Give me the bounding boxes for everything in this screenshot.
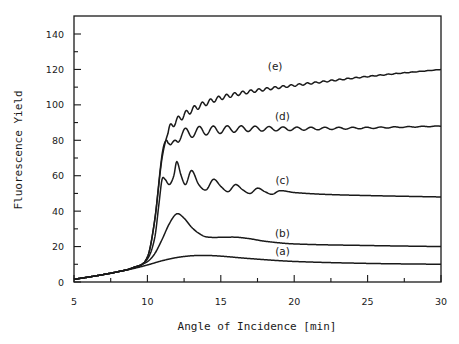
plot-frame — [74, 16, 441, 282]
curve-label-d: (d) — [275, 110, 290, 122]
y-tick-label: 100 — [46, 99, 64, 110]
x-tick-label: 15 — [215, 296, 227, 307]
plot-border — [74, 16, 441, 282]
curve-label-a: (a) — [275, 245, 290, 257]
curve-label-e: (e) — [268, 60, 283, 72]
x-tick-label: 20 — [288, 296, 300, 307]
curve-d — [74, 126, 441, 280]
y-tick-label: 40 — [52, 206, 64, 217]
y-tick-label: 120 — [46, 64, 64, 75]
curve-label-c: (c) — [275, 174, 289, 186]
x-tick-label: 30 — [435, 296, 447, 307]
x-tick-label: 25 — [362, 296, 374, 307]
curve-c — [74, 162, 441, 280]
curve-label-b: (b) — [275, 227, 290, 239]
y-axis: 020406080100120140 — [46, 29, 81, 288]
y-axis-title: Fluorescence Yield — [12, 90, 25, 209]
x-tick-label: 5 — [71, 296, 77, 307]
curves — [74, 70, 441, 280]
y-tick-label: 60 — [52, 170, 64, 181]
y-tick-label: 140 — [46, 29, 64, 40]
y-tick-label: 80 — [52, 135, 64, 146]
curve-a — [74, 255, 441, 279]
x-tick-label: 10 — [141, 296, 153, 307]
fluorescence-yield-chart: 51015202530 020406080100120140 (a)(b)(c)… — [0, 0, 459, 344]
y-tick-label: 0 — [58, 277, 64, 288]
y-tick-label: 20 — [52, 241, 64, 252]
curve-e — [74, 70, 441, 280]
x-axis-title: Angle of Incidence [min] — [178, 320, 337, 333]
x-axis: 51015202530 — [71, 275, 447, 307]
